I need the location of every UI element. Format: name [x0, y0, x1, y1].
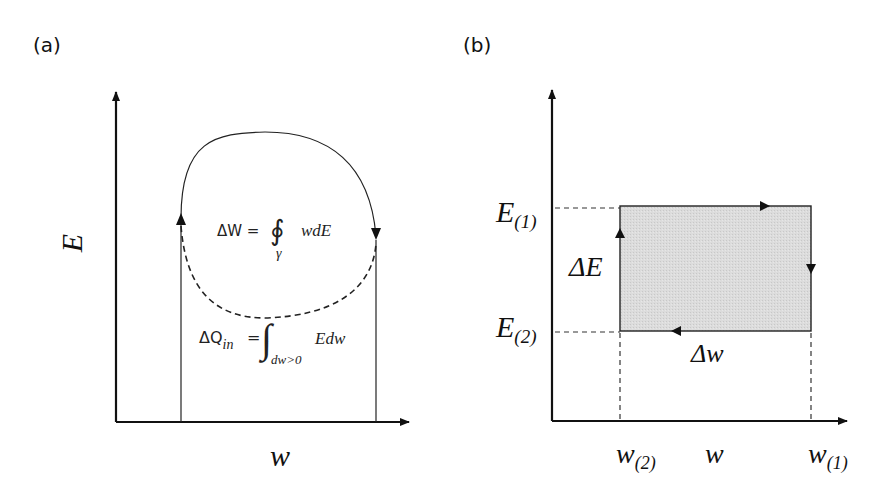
w2-label: w(2) — [616, 438, 656, 474]
contour-integral-sign: ∮ — [270, 215, 285, 246]
work-formula-lhs: ΔW = — [217, 222, 259, 240]
w1-label: w(1) — [808, 438, 848, 474]
e2-label-sub: (2) — [514, 326, 536, 348]
e2-label-main: E — [495, 310, 514, 343]
panel-a-label: (a) — [33, 33, 61, 57]
heat-formula-lhs-sub: in — [223, 337, 234, 352]
panel-b: (b) E(1) E(2) ΔE Δw w(2) w w(1) — [463, 33, 848, 474]
work-formula-subscript: γ — [276, 246, 282, 261]
x-axis-label: w — [270, 439, 290, 472]
heat-formula-integrand: Edw — [314, 329, 346, 348]
e1-label-sub: (1) — [514, 211, 536, 233]
w1-label-main: w — [808, 438, 827, 469]
diagram-canvas: (a) E w ΔW = ∮ γ wdE ΔQin = ∫ dw>0 — [0, 0, 892, 490]
work-formula: ΔW = ∮ γ wdE — [217, 215, 332, 261]
e1-label-main: E — [495, 195, 514, 228]
w2-label-main: w — [616, 438, 635, 469]
heat-formula-lhs: ΔQin — [199, 328, 233, 352]
e1-label: E(1) — [495, 195, 536, 233]
y-axis-label: E — [55, 234, 88, 253]
delta-w-label: Δw — [690, 339, 724, 368]
w1-label-sub: (1) — [827, 453, 848, 474]
x-axis-label: w — [705, 438, 724, 469]
up-arrow-icon — [176, 213, 186, 225]
cycle-area-rectangle — [620, 206, 811, 331]
heat-formula: ΔQin = ∫ dw>0 Edw — [199, 316, 346, 367]
w2-label-sub: (2) — [635, 453, 656, 474]
panel-a: (a) E w ΔW = ∮ γ wdE ΔQin = ∫ dw>0 — [33, 33, 409, 472]
heat-formula-equals: = — [247, 328, 260, 347]
heat-formula-subscript: dw>0 — [271, 352, 302, 367]
panel-b-label: (b) — [463, 33, 491, 57]
heat-formula-lhs-main: ΔQ — [199, 328, 223, 347]
delta-e-label: ΔE — [568, 251, 603, 282]
down-arrow-icon — [371, 228, 381, 240]
e2-label: E(2) — [495, 310, 536, 348]
work-formula-integrand: wdE — [301, 221, 332, 240]
